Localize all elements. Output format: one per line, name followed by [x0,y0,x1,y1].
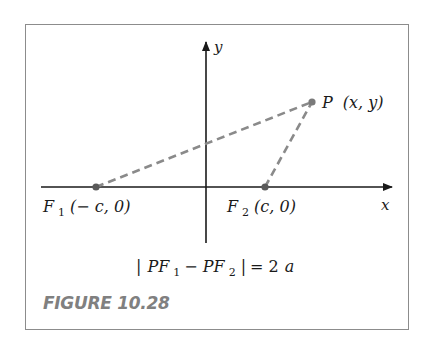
label-f1-sub: 1 [58,206,65,219]
segment-pf2 [265,102,312,187]
eq-a: a [285,257,295,276]
hyperbola-equation: | PF 1 − PF 2 | = 2 a [136,257,294,279]
label-f2-coords: (c, 0) [254,197,296,216]
label-p: P (x, y) [321,93,383,112]
x-axis-label: x [381,196,390,214]
eq-pf2-sub: 2 [229,266,236,279]
label-f1-name: F [42,197,55,216]
point-f2 [261,183,268,190]
y-axis-label: y [213,38,223,56]
eq-bar-close: | [241,257,246,276]
figure-caption: FIGURE 10.28 [43,293,170,313]
eq-pf2: PF [202,257,226,276]
eq-bar-open: | [136,257,141,276]
label-f1: F 1 (− c, 0) [42,197,130,219]
label-p-name: P [321,93,333,112]
eq-pf1-sub: 1 [173,266,180,279]
label-f2: F 2 (c, 0) [226,197,296,219]
eq-minus: − [184,257,203,276]
point-f1 [92,183,99,190]
label-f1-coords: (− c, 0) [70,197,130,216]
label-f2-name: F [226,197,239,216]
eq-equals: = 2 [250,257,279,276]
point-p [308,98,315,105]
label-p-coords: (x, y) [343,93,384,112]
eq-pf1: PF [146,257,170,276]
label-f2-sub: 2 [242,206,249,219]
segment-pf1 [96,102,312,187]
